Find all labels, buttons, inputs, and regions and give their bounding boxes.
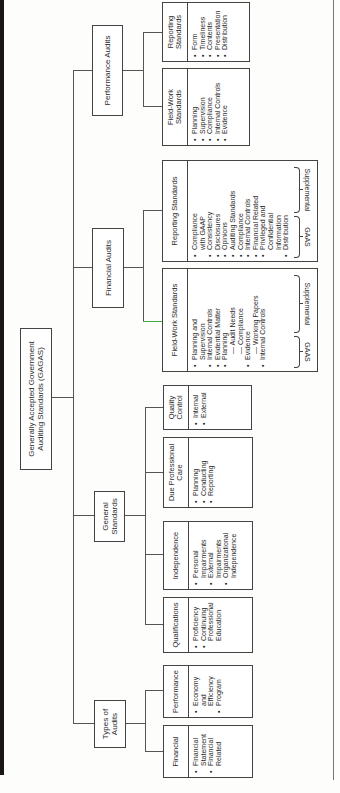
leaf-title: Financial bbox=[164, 726, 189, 777]
supplemental-label: Supplemental bbox=[303, 162, 311, 218]
bracket-performance-audits bbox=[143, 32, 144, 107]
leaf-title: Reporting Standards bbox=[163, 3, 188, 61]
list-item: Internal Controls bbox=[214, 72, 222, 142]
list-item: Evidential Matter bbox=[214, 272, 222, 368]
node-label: Types of Audits bbox=[101, 702, 119, 746]
node-types-of-audits: Types of Audits bbox=[94, 700, 126, 748]
node-financial-audits: Financial Audits bbox=[92, 228, 124, 308]
list-item: — Audit Needs bbox=[229, 272, 237, 368]
connector-general-standards bbox=[73, 515, 94, 516]
scan-edge-strip bbox=[0, 0, 4, 775]
node-general-standards: General Standards bbox=[94, 491, 125, 542]
list-item: Supervision bbox=[199, 72, 207, 142]
leaf-type-financial: Financial Financial Statement Financial … bbox=[163, 725, 253, 778]
list-item: Internal Controls bbox=[244, 164, 252, 258]
list-item: Confidential bbox=[267, 164, 275, 258]
list-item: Opinions bbox=[221, 164, 229, 258]
leaf-due-professional-care: Due Professional Care Planning Conductin… bbox=[163, 437, 253, 508]
bracket-general-standards bbox=[145, 407, 146, 625]
leaf-title: Reporting Standards bbox=[163, 161, 188, 261]
connector-performance-audits bbox=[73, 70, 92, 71]
list-item: Distribution bbox=[221, 6, 229, 58]
leaf-title: Performance bbox=[164, 666, 189, 717]
list-item: Related bbox=[215, 729, 223, 774]
list-item: Impairments bbox=[215, 525, 223, 586]
leaf-title: Field-Work Standards bbox=[163, 69, 188, 145]
list-item: Compliance bbox=[191, 164, 199, 258]
list-item: Contents bbox=[206, 6, 214, 58]
node-label: General Standards bbox=[101, 493, 119, 540]
page-border-line bbox=[333, 0, 334, 780]
list-item: Planning bbox=[221, 272, 229, 368]
connector-type-performance bbox=[145, 690, 163, 691]
list-item: Financial Related bbox=[252, 164, 260, 258]
leaf-title: Qualifications bbox=[164, 598, 189, 652]
list-item: Economy bbox=[192, 669, 200, 714]
list-item: Timeliness bbox=[199, 6, 207, 58]
list-item: Independence bbox=[230, 525, 238, 586]
connector-financial-audits-sub bbox=[124, 267, 143, 268]
list-item: Statement bbox=[200, 729, 208, 774]
list-item: and bbox=[200, 669, 208, 714]
list-item: Distribution bbox=[282, 164, 290, 258]
list-item: Evidence bbox=[221, 72, 229, 142]
supplemental-label: Supplemental bbox=[303, 277, 311, 331]
leaf-independence: Independence Personal Impairments Extern… bbox=[163, 521, 253, 590]
list-item: Reporting bbox=[207, 441, 215, 504]
brace-group: GAAS Supplemental bbox=[294, 272, 314, 368]
list-item: Planning bbox=[192, 441, 200, 504]
connector-root bbox=[52, 397, 73, 398]
connector-performance-audits-sub bbox=[123, 70, 143, 71]
node-label: Financial Audits bbox=[104, 240, 113, 296]
list-item: Personal bbox=[192, 525, 200, 586]
connector-fin-reporting bbox=[143, 210, 162, 211]
list-item: Efficiency bbox=[207, 669, 215, 714]
connector-fin-fieldwork bbox=[143, 321, 162, 322]
spine-line bbox=[73, 70, 74, 724]
list-item: Information bbox=[275, 164, 283, 258]
connector-types-of-audits bbox=[73, 723, 94, 724]
list-item: Internal Controls bbox=[259, 272, 267, 368]
list-item: Consistency bbox=[206, 164, 214, 258]
gagas-hierarchy-diagram: Generally Accepted Government Auditing S… bbox=[0, 0, 340, 793]
list-item: Education bbox=[215, 601, 223, 649]
connector-perf-fieldwork bbox=[143, 106, 162, 107]
leaf-title: Quality Control bbox=[164, 386, 189, 429]
leaf-fin-fieldwork-standards: Field-Work Standards Planning and Superv… bbox=[162, 268, 318, 372]
leaf-title: Due Professional Care bbox=[164, 438, 189, 507]
gaas-label: GAAS bbox=[303, 220, 311, 254]
list-item: Evidence bbox=[244, 272, 252, 368]
connector-qualifications bbox=[145, 624, 163, 625]
connector-financial-audits bbox=[73, 267, 92, 268]
list-item: Compliance bbox=[206, 72, 214, 142]
list-item: Financial bbox=[207, 729, 215, 774]
gaas-brace bbox=[294, 216, 300, 258]
list-item: Privileged and bbox=[259, 164, 267, 258]
list-item: Program bbox=[215, 669, 223, 714]
node-performance-audits: Performance Audits bbox=[92, 25, 123, 116]
list-item: Compliance bbox=[237, 164, 245, 258]
node-label: Performance Audits bbox=[103, 36, 112, 106]
list-item: Conducting bbox=[200, 441, 208, 504]
list-item: Planning bbox=[191, 72, 199, 142]
connector-types-of-audits-sub bbox=[126, 723, 145, 724]
connector-independence bbox=[145, 554, 163, 555]
list-item: External bbox=[200, 389, 208, 426]
list-item: — Working Papers bbox=[252, 272, 260, 368]
root-label: Generally Accepted Government Auditing S… bbox=[27, 330, 45, 468]
list-item: Supervision bbox=[199, 272, 207, 368]
leaf-title: Independence bbox=[164, 522, 189, 589]
leaf-quality-control: Quality Control Internal External bbox=[163, 385, 252, 430]
list-item: Financial bbox=[192, 729, 200, 774]
list-item: Continuing bbox=[200, 601, 208, 649]
connector-general-standards-sub bbox=[125, 515, 145, 516]
gaas-label: GAAS bbox=[303, 338, 311, 366]
list-item: Disclosures bbox=[214, 164, 222, 258]
bracket-financial-audits bbox=[143, 210, 144, 322]
bracket-types-of-audits bbox=[145, 690, 146, 752]
list-item: External bbox=[207, 525, 215, 586]
list-item: — Compliance bbox=[237, 272, 245, 368]
list-item: Internal Controls bbox=[206, 272, 214, 368]
gaas-brace bbox=[294, 336, 300, 368]
list-item: Planning and bbox=[191, 272, 199, 368]
